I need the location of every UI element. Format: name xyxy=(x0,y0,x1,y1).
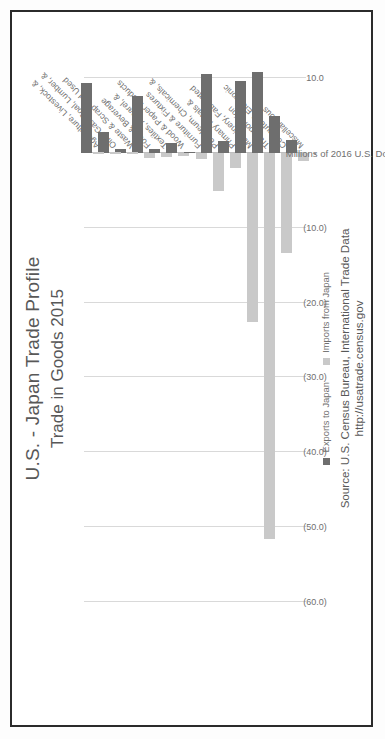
screenshot-page: U.S. - Japan Trade Profile Trade in Good… xyxy=(0,0,385,739)
bar-imports[interactable] xyxy=(178,153,189,156)
bar-imports[interactable] xyxy=(110,152,121,154)
bar-imports[interactable] xyxy=(196,153,207,159)
x-axis-tick-label: (40.0) xyxy=(293,447,337,457)
bar-imports[interactable] xyxy=(281,153,292,253)
bar-imports[interactable] xyxy=(127,152,138,154)
bar-imports[interactable] xyxy=(230,153,241,168)
legend-entry-imports[interactable]: Imports from Japan xyxy=(320,272,331,365)
bar-imports[interactable] xyxy=(247,153,258,322)
rotated-chart: U.S. - Japan Trade Profile Trade in Good… xyxy=(12,12,371,725)
page-title: U.S. - Japan Trade Profile xyxy=(22,12,44,725)
x-axis-tick-label: 10.0 xyxy=(293,73,337,83)
x-axis-tick-label: (20.0) xyxy=(293,298,337,308)
x-axis-tick-label: (30.0) xyxy=(293,372,337,382)
bar-imports[interactable] xyxy=(213,153,224,191)
bar-imports[interactable] xyxy=(264,153,275,539)
x-axis-title: Millions of 2016 U.S. Dollars xyxy=(286,148,385,159)
gridline xyxy=(84,77,306,78)
chart-frame: U.S. - Japan Trade Profile Trade in Good… xyxy=(10,10,373,727)
bar-imports[interactable] xyxy=(93,152,104,154)
x-axis-tick-label: (10.0) xyxy=(293,223,337,233)
source-line-1: Source: U.S. Census Bureau, Internationa… xyxy=(338,12,352,725)
legend-label-imports: Imports from Japan xyxy=(320,272,331,353)
legend-swatch-imports xyxy=(323,358,330,365)
chart-legend: Exports to Japan Imports from Japan xyxy=(320,12,331,725)
bar-imports[interactable] xyxy=(144,153,155,157)
legend-label-exports: Exports to Japan xyxy=(320,382,331,452)
legend-swatch-exports xyxy=(323,458,330,465)
bar-imports[interactable] xyxy=(161,153,172,157)
x-axis-tick-label: (60.0) xyxy=(293,597,337,607)
source-line-2: http://usatrade.census.gov xyxy=(352,12,366,725)
source-note: Source: U.S. Census Bureau, Internationa… xyxy=(338,12,366,725)
x-axis-tick-label: (50.0) xyxy=(293,522,337,532)
gridline xyxy=(84,601,306,602)
